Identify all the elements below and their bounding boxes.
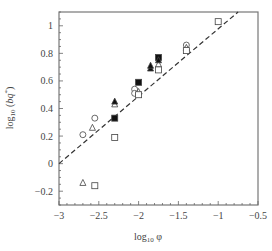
open-circle-marker (80, 132, 86, 138)
open-square-marker (156, 67, 162, 73)
y-tick-label: 0.6 (41, 75, 54, 86)
filled-triangle-marker (148, 62, 154, 68)
open-square-marker (112, 134, 118, 140)
open-square-marker (136, 92, 142, 98)
filled-square-marker (136, 79, 142, 85)
x-tick-label: −2 (133, 210, 144, 221)
axis-ticks (59, 12, 258, 205)
fit-line (59, 12, 238, 164)
tick-labels: −3−2.5−2−1.5−1−0.5−0.200.20.40.60.81 (35, 20, 267, 221)
open-square-marker (92, 183, 98, 189)
open-triangle-marker (80, 179, 86, 185)
filled-square-marker (112, 115, 118, 121)
y-tick-label: 0 (48, 158, 53, 169)
y-tick-label: 0.4 (41, 103, 54, 114)
x-tick-label: −2.5 (90, 210, 108, 221)
x-tick-label: −0.5 (249, 210, 267, 221)
y-tick-label: 0.2 (41, 131, 54, 142)
filled-triangle-marker (112, 98, 118, 104)
open-triangle-marker (89, 124, 95, 130)
x-tick-label: −1 (213, 210, 224, 221)
y-tick-label: 0.8 (41, 48, 54, 59)
x-tick-label: −1.5 (169, 210, 187, 221)
open-square-marker (215, 19, 221, 25)
open-square-marker (183, 48, 189, 54)
open-circle-marker (92, 115, 98, 121)
scatter-chart: −3−2.5−2−1.5−1−0.5−0.200.20.40.60.81 log… (0, 0, 272, 251)
y-tick-label: 1 (48, 20, 53, 31)
y-axis-label: log10 (bq*) (3, 87, 17, 129)
y-tick-label: −0.2 (35, 186, 53, 197)
x-tick-label: −3 (54, 210, 65, 221)
plot-frame (59, 12, 258, 205)
x-axis-label: log10 φ (134, 231, 162, 244)
